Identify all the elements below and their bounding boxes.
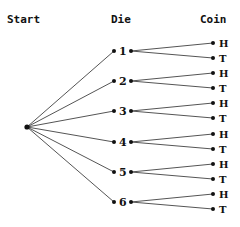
tree-diagram: 1HT2HT3HT4HT5HT6HT (0, 0, 240, 227)
node-dot (129, 79, 133, 83)
coin-outcome-label: H (219, 159, 228, 170)
root-node-dot (24, 124, 29, 129)
node-dot (129, 109, 133, 113)
node-dot (211, 56, 215, 60)
coin-outcome-label: T (219, 83, 227, 94)
branch-line (131, 194, 213, 202)
branch-line (131, 103, 213, 111)
coin-outcome-label: T (219, 113, 227, 124)
coin-outcome-label: T (219, 174, 227, 185)
coin-outcome-label: T (219, 144, 227, 155)
node-dot (129, 49, 133, 53)
branch-line (131, 51, 213, 58)
coin-outcome-label: H (219, 68, 228, 79)
node-dot (112, 109, 116, 113)
branch-line (27, 127, 114, 142)
node-dot (211, 132, 215, 136)
node-dot (112, 170, 116, 174)
coin-outcome-label: T (219, 204, 227, 215)
node-dot (112, 49, 116, 53)
branch-line (131, 142, 213, 149)
node-dot (211, 86, 215, 90)
coin-outcome-label: H (219, 189, 228, 200)
coin-outcome-label: H (219, 38, 228, 49)
node-dot (211, 71, 215, 75)
branch-line (27, 111, 114, 127)
die-outcome-label: 2 (119, 75, 127, 88)
node-dot (211, 207, 215, 211)
branch-line (27, 127, 114, 172)
branch-line (131, 172, 213, 179)
node-dot (129, 140, 133, 144)
node-dot (112, 200, 116, 204)
branch-line (131, 73, 213, 81)
branch-line (27, 81, 114, 127)
node-dot (211, 192, 215, 196)
branch-line (131, 202, 213, 209)
die-outcome-label: 5 (119, 166, 127, 179)
branch-line (131, 164, 213, 172)
branch-line (131, 43, 213, 51)
die-outcome-label: 1 (119, 45, 127, 58)
node-dot (211, 147, 215, 151)
branch-line (131, 81, 213, 88)
node-dot (129, 200, 133, 204)
node-dot (211, 162, 215, 166)
node-dot (112, 79, 116, 83)
die-outcome-label: 3 (119, 105, 127, 118)
node-dot (211, 101, 215, 105)
node-dot (112, 140, 116, 144)
coin-outcome-label: H (219, 98, 228, 109)
node-dot (211, 116, 215, 120)
die-outcome-label: 6 (119, 196, 127, 209)
node-dot (129, 170, 133, 174)
die-outcome-label: 4 (119, 136, 127, 149)
branch-line (27, 127, 114, 202)
coin-outcome-label: H (219, 129, 228, 140)
branch-line (27, 51, 114, 127)
branch-line (131, 134, 213, 142)
coin-outcome-label: T (219, 53, 227, 64)
node-dot (211, 41, 215, 45)
branch-line (131, 111, 213, 118)
node-dot (211, 177, 215, 181)
